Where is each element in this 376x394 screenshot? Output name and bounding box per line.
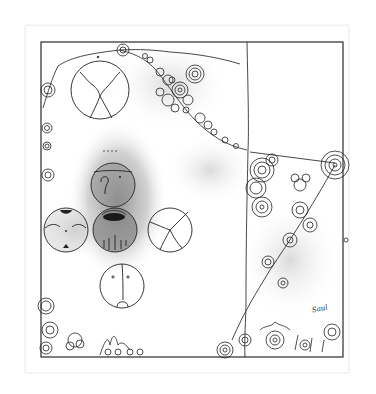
bottom-edge-spirals <box>66 322 340 358</box>
ear-circle-left <box>44 208 88 252</box>
drawing <box>0 0 376 394</box>
shaded-mouth-circle-center <box>93 208 137 252</box>
graphite-shading <box>40 40 340 320</box>
top-right-connector <box>250 152 335 163</box>
face-circle-bottom <box>100 264 144 308</box>
